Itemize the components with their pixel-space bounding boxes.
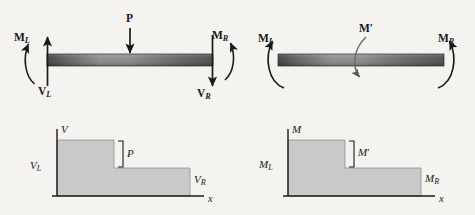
axis-label-V: V [61, 124, 68, 135]
axis-label-x-shear: x [208, 194, 213, 205]
label-VR-shear-diagram: VR [194, 174, 206, 187]
figure-canvas: ML VL P MR VR ML M′ MR V VL P VR x M ML … [0, 0, 475, 215]
axis-label-x-moment: x [439, 194, 444, 205]
label-P-top-left: P [126, 13, 133, 25]
label-VL-top-left: VL [38, 86, 51, 100]
figure-vector-layer [0, 0, 475, 215]
moment-arrow-MR [225, 43, 234, 80]
label-MR-top-right: MR [438, 33, 454, 47]
label-MR-moment-diagram: MR [425, 173, 439, 186]
label-VR-top-left: VR [197, 88, 211, 102]
axis-label-M: M [292, 124, 301, 135]
moment-diagram-graphic [283, 129, 435, 196]
beam-top-left [47, 54, 213, 66]
label-VL-shear-diagram: VL [30, 160, 41, 173]
label-MR-top-left: MR [212, 30, 228, 44]
label-P-shear-jump: P [127, 148, 134, 159]
label-M-prime-top-right: M′ [359, 23, 373, 35]
label-ML-top-left: ML [14, 32, 30, 46]
label-ML-moment-diagram: ML [259, 159, 273, 172]
moment-arrow-ML [25, 44, 34, 84]
label-M-prime-moment-jump: M′ [358, 147, 370, 158]
label-ML-top-right: ML [258, 33, 274, 47]
beam-top-right [278, 54, 444, 66]
shear-diagram-graphic [52, 129, 204, 196]
